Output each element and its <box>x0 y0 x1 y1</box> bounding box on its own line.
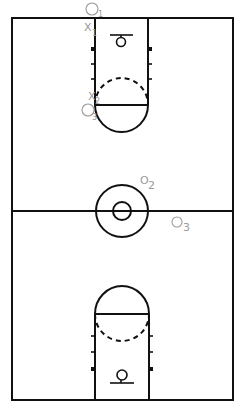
offense-player-icon <box>172 217 182 227</box>
offense-player-icon <box>86 3 98 15</box>
player-o1: 1 <box>86 3 103 19</box>
bottom-key <box>91 286 153 400</box>
player-x3: O 2 <box>140 174 155 192</box>
top-free-throw-circle-solid <box>95 105 148 132</box>
svg-text:1: 1 <box>98 10 103 19</box>
svg-text:1: 1 <box>92 29 97 38</box>
svg-text:X: X <box>84 21 92 34</box>
svg-text:3: 3 <box>183 221 190 234</box>
bottom-free-throw-circle-dashed <box>95 314 149 341</box>
top-free-throw-circle-dashed <box>95 78 148 105</box>
basketball-court-diagram: 1 X 1 X 2 3 O 2 3 <box>0 0 240 409</box>
bottom-free-throw-circle-solid <box>95 286 149 314</box>
bottom-rim <box>117 370 127 380</box>
top-rim <box>117 38 126 47</box>
svg-text:3: 3 <box>92 113 97 122</box>
svg-text:2: 2 <box>95 97 100 106</box>
player-o3: 3 <box>172 217 190 234</box>
court-boundary <box>12 18 233 400</box>
svg-text:2: 2 <box>148 179 155 192</box>
top-key <box>91 18 152 132</box>
